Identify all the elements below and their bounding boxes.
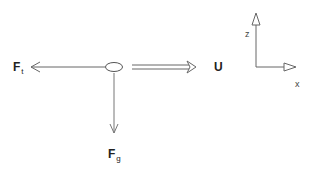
velocity-double-arrow <box>132 61 196 73</box>
friction-force-arrow <box>31 62 105 72</box>
x-axis-label: x <box>295 80 300 89</box>
gravity-force-label: Fg <box>108 148 121 163</box>
friction-subscript: t <box>21 67 23 76</box>
velocity-label: U <box>214 61 223 73</box>
coordinate-axes <box>252 13 296 71</box>
body-ellipse <box>106 63 123 72</box>
gravity-symbol: F <box>108 147 115 161</box>
gravity-subscript: g <box>116 154 120 163</box>
friction-symbol: F <box>13 60 20 74</box>
z-axis-label: z <box>245 30 250 39</box>
force-diagram-canvas <box>0 0 324 171</box>
friction-force-label: Ft <box>13 61 24 76</box>
gravity-force-arrow <box>110 73 118 133</box>
